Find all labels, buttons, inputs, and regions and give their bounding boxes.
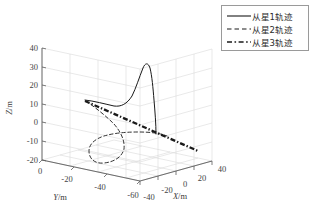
x-axis-title: X/m bbox=[172, 191, 188, 201]
y-tick-label: -60 bbox=[127, 190, 138, 200]
x-tick-label: 40 bbox=[218, 164, 227, 174]
y-tick-label: 0 bbox=[38, 166, 42, 176]
svg-text:Y/m: Y/m bbox=[53, 192, 67, 202]
z-tick-label: 10 bbox=[30, 99, 39, 109]
legend-item-1[interactable]: 从星2轨迹 bbox=[226, 22, 304, 35]
x-tick-label: 20 bbox=[198, 173, 207, 183]
svg-text:X/m: X/m bbox=[172, 191, 188, 201]
legend-label: 从星1轨迹 bbox=[252, 10, 292, 22]
y-axis-title: Y/m bbox=[53, 192, 67, 202]
x-tick-label: 0 bbox=[183, 179, 187, 189]
legend-line-sample-dashed bbox=[226, 23, 252, 34]
legend-item-0[interactable]: 从星1轨迹 bbox=[226, 9, 304, 22]
y-axis-ticks bbox=[39, 160, 140, 184]
z-tick-label: -10 bbox=[27, 136, 38, 146]
x-axis-title-unit: /m bbox=[178, 191, 187, 201]
grid-lines bbox=[42, 48, 212, 181]
z-tick-label: 40 bbox=[30, 43, 39, 53]
legend-line-sample-dashdot bbox=[226, 36, 252, 47]
y-tick-label: -40 bbox=[94, 182, 105, 192]
figure-3d-trajectory-plot: 40 30 20 10 0 -10 -20 0 -20 -40 -60 -40 … bbox=[0, 0, 314, 217]
y-axis-title-unit: /m bbox=[58, 192, 67, 202]
svg-text:Z/m: Z/m bbox=[4, 101, 14, 115]
legend-item-2[interactable]: 从星3轨迹 bbox=[226, 35, 304, 48]
legend-label: 从星3轨迹 bbox=[252, 36, 292, 48]
z-axis-title-unit: /m bbox=[4, 101, 14, 110]
z-axis-ticks bbox=[42, 48, 46, 161]
z-tick-label: 30 bbox=[30, 62, 39, 72]
z-tick-label: 20 bbox=[30, 80, 39, 90]
y-tick-label: -20 bbox=[61, 174, 72, 184]
legend-label: 从星2轨迹 bbox=[252, 23, 292, 35]
x-tick-label: -40 bbox=[143, 192, 154, 202]
x-tick-label: -20 bbox=[161, 185, 172, 195]
z-tick-label: 0 bbox=[34, 117, 38, 127]
z-axis-title: Z/m bbox=[4, 101, 14, 115]
legend: 从星1轨迹 从星2轨迹 从星3轨迹 bbox=[221, 5, 309, 51]
legend-line-sample-solid bbox=[226, 10, 252, 21]
y-axis-spine bbox=[42, 160, 140, 181]
z-tick-label: -20 bbox=[27, 155, 38, 165]
